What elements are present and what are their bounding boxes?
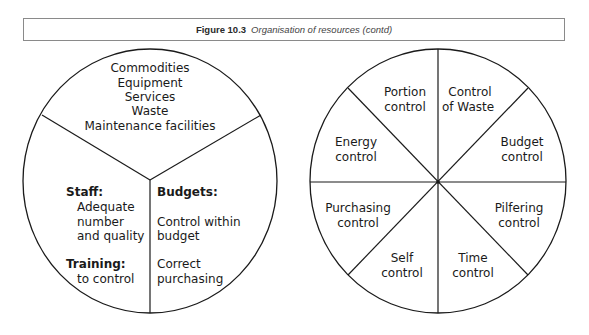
segment-staff: Staff: Adequate number and quality Train… xyxy=(66,185,144,286)
segment-time-control: Time control xyxy=(452,251,494,280)
segment-energy-control: Energy control xyxy=(335,135,377,164)
resource-commodities: Commodities xyxy=(110,61,189,75)
resource-equipment: Equipment xyxy=(117,76,182,90)
segment-label-line2: control xyxy=(452,266,494,280)
staff-line-3: and quality xyxy=(77,229,144,243)
segment-portion-control: Portion control xyxy=(384,85,426,114)
diagram-canvas: Commodities Equipment Services Waste Mai… xyxy=(0,0,589,335)
segment-budgets: Budgets: Control within budget Correct p… xyxy=(157,185,241,286)
segment-label-line1: Control xyxy=(448,85,491,99)
training-heading: Training: xyxy=(66,257,126,271)
segment-label-line1: Time xyxy=(457,251,487,265)
segment-budget-control: Budget control xyxy=(500,135,543,164)
segment-label-line2: control xyxy=(384,100,426,114)
segment-control-of-waste: Control of Waste xyxy=(442,85,494,114)
segment-purchasing-control: Purchasing control xyxy=(325,201,391,230)
segment-label-line2: control xyxy=(335,150,377,164)
resources-circle: Commodities Equipment Services Waste Mai… xyxy=(23,49,277,313)
budgets-line-4: purchasing xyxy=(157,272,223,286)
budgets-line-3: Correct xyxy=(157,257,201,271)
segment-pilfering-control: Pilfering control xyxy=(495,201,544,230)
budgets-line-2: budget xyxy=(157,229,200,243)
staff-line-1: Adequate xyxy=(77,200,135,214)
center-point xyxy=(436,180,440,184)
segment-resources: Commodities Equipment Services Waste Mai… xyxy=(85,61,216,133)
segment-label-line2: control xyxy=(337,216,379,230)
segment-label-line1: Energy xyxy=(335,135,377,149)
resource-services: Services xyxy=(125,90,176,104)
segment-self-control: Self control xyxy=(381,251,423,280)
segment-label-line1: Pilfering xyxy=(495,201,544,215)
staff-line-2: number xyxy=(77,215,124,229)
segment-label-line1: Self xyxy=(391,251,414,265)
segment-label-line1: Budget xyxy=(500,135,543,149)
resource-waste: Waste xyxy=(132,104,169,118)
staff-heading: Staff: xyxy=(66,185,103,199)
segment-label-line2: control xyxy=(498,216,540,230)
segment-label-line1: Purchasing xyxy=(325,201,391,215)
budgets-line-1: Control within xyxy=(157,215,241,229)
segment-label-line2: control xyxy=(501,150,543,164)
training-line-1: to control xyxy=(77,272,134,286)
controls-circle: Portion control Control of Waste Budget … xyxy=(310,49,566,313)
segment-label-line2: control xyxy=(381,266,423,280)
segment-label-line2: of Waste xyxy=(442,100,494,114)
resource-maintenance: Maintenance facilities xyxy=(85,119,216,133)
budgets-heading: Budgets: xyxy=(157,185,218,199)
segment-label-line1: Portion xyxy=(384,85,426,99)
